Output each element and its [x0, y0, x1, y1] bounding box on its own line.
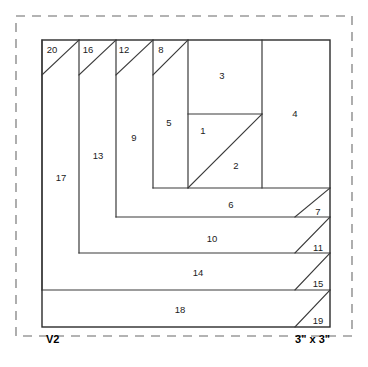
- piece-number-4: 4: [292, 108, 297, 119]
- block-size-label: 3" x 3": [295, 333, 330, 345]
- piece-number-13: 13: [93, 150, 104, 161]
- piece-number-5: 5: [166, 117, 171, 128]
- piece-number-2: 2: [233, 160, 238, 171]
- piece-number-12: 12: [119, 44, 130, 55]
- block-name-label: V2: [46, 333, 59, 345]
- piece-number-18: 18: [175, 304, 186, 315]
- piece-number-6: 6: [228, 199, 233, 210]
- piece-number-10: 10: [207, 233, 218, 244]
- piece-number-3: 3: [219, 70, 224, 81]
- piece-number-15: 15: [313, 278, 324, 289]
- piece-number-16: 16: [83, 44, 94, 55]
- piece-number-20: 20: [47, 44, 58, 55]
- piece-number-14: 14: [193, 267, 204, 278]
- diagram-page: 1234567891011121314151617181920 V2 3" x …: [0, 0, 368, 367]
- piece-number-11: 11: [313, 242, 323, 253]
- block-outline: [42, 40, 330, 327]
- piece-number-1: 1: [200, 125, 205, 136]
- piece-number-8: 8: [158, 44, 163, 55]
- piece-number-19: 19: [313, 315, 324, 326]
- paper-piecing-pattern: 1234567891011121314151617181920 V2 3" x …: [0, 0, 368, 367]
- piece-number-7: 7: [315, 206, 320, 217]
- piece-number-9: 9: [131, 132, 136, 143]
- piece-number-17: 17: [56, 172, 67, 183]
